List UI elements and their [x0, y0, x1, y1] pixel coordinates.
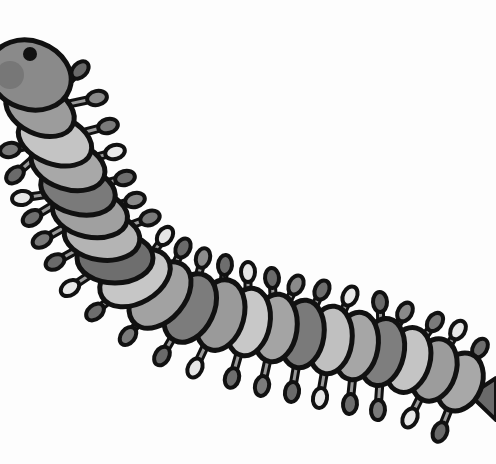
millipede-illustration	[0, 0, 496, 464]
illustration-canvas	[0, 0, 496, 464]
body-segments	[0, 73, 492, 418]
eye-icon	[23, 47, 37, 61]
